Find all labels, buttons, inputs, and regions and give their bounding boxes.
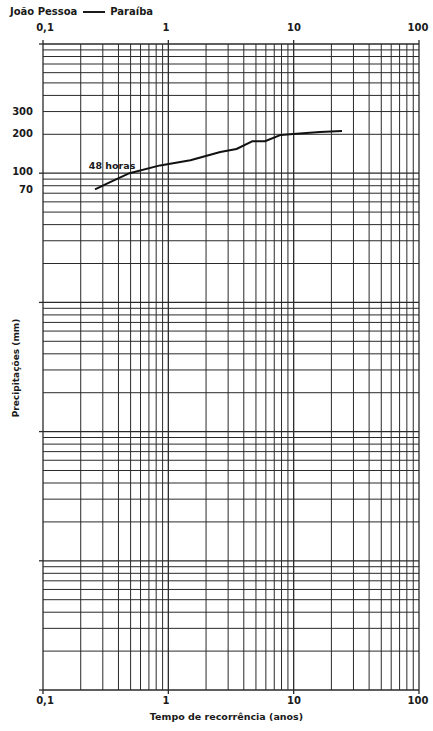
series-annotation: 48 horas bbox=[89, 160, 136, 171]
x-axis-label: Tempo de recorrência (anos) bbox=[150, 711, 303, 722]
plot-area bbox=[0, 0, 433, 731]
x-tick-bottom-0: 0,1 bbox=[36, 695, 54, 706]
x-axis-label-wrap: Tempo de recorrência (anos) bbox=[0, 711, 433, 722]
x-tick-bottom-1: 1 bbox=[163, 695, 170, 706]
x-tick-bottom-2: 10 bbox=[287, 695, 301, 706]
x-tick-bottom-3: 100 bbox=[408, 695, 429, 706]
